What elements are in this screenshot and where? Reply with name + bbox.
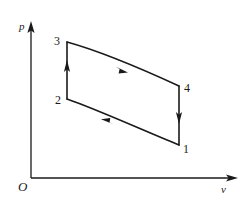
direction-arrowheads-group [64,60,182,125]
state-label-1: 1 [183,143,189,155]
p-axis-label: p [19,21,25,32]
arrowhead-3-to-4 [116,66,129,73]
process-1-to-2 [67,99,179,145]
state-label-4: 4 [184,82,190,94]
state-label-2: 2 [55,94,61,106]
origin-label: O [18,180,27,193]
process-3-to-4 [67,42,179,86]
pv-diagram-figure: p v O 1 2 3 4 [0,0,247,202]
v-axis-label: v [221,184,226,195]
cycle-path-group [67,42,179,145]
state-label-3: 3 [54,35,60,47]
pv-diagram-canvas [0,0,247,202]
arrowhead-1-to-2 [101,118,114,125]
